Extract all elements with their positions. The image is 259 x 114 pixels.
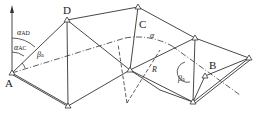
alpha-label: α: [150, 32, 154, 40]
alpha-ad-label: αAD: [17, 29, 30, 37]
route-line: [12, 38, 125, 73]
beta-a-left-label: βa: [37, 51, 44, 59]
radius-line-left: [118, 44, 127, 103]
radius-label: R: [152, 66, 157, 74]
north-arrow-head: [10, 5, 14, 13]
right-top-station-marker: [192, 35, 198, 40]
beta-a-right-label: βa: [178, 75, 185, 83]
alpha-ac-label: αAC: [14, 44, 27, 52]
center-marker: [127, 67, 133, 72]
point-d-label: D: [63, 5, 71, 16]
point-c-label: C: [139, 19, 146, 30]
triangulation-diagram: A D C B αAD αAC βa βa α R: [0, 0, 259, 114]
point-b-label: B: [209, 60, 216, 71]
point-a-label: A: [5, 78, 13, 89]
station-c-marker: [135, 4, 141, 9]
